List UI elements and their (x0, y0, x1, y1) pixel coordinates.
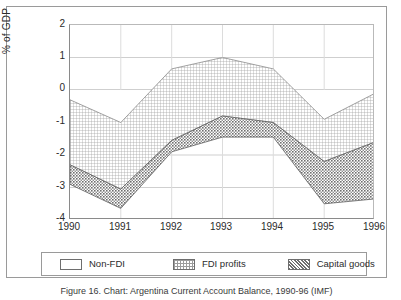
x-axis-tick-labels: 1990 1991 1992 1993 1994 1995 1996 (69, 221, 376, 235)
x-tick-1994: 1994 (252, 221, 292, 232)
y-tick-neg3: -3 (39, 181, 65, 191)
y-tick-1: 1 (39, 51, 65, 61)
legend-swatch-fdi-profits (173, 259, 195, 270)
x-tick-1996: 1996 (354, 221, 394, 232)
chart-legend: Non-FDI FDI profits Capital goods (41, 252, 367, 276)
x-tick-1990: 1990 (49, 221, 89, 232)
x-tick-1993: 1993 (201, 221, 241, 232)
x-tick-1991: 1991 (100, 221, 140, 232)
y-axis-tick-labels: 2 1 0 -1 -2 -3 -4 (37, 24, 65, 219)
figure-caption: Figure 16. Chart: Argentina Current Acco… (6, 286, 387, 297)
y-tick-neg2: -2 (39, 148, 65, 158)
legend-item-non-fdi: Non-FDI (60, 253, 125, 275)
area-chart-svg (70, 25, 374, 219)
x-tick-1995: 1995 (303, 221, 343, 232)
legend-swatch-non-fdi (60, 259, 82, 270)
x-tick-1992: 1992 (151, 221, 191, 232)
legend-label-non-fdi: Non-FDI (89, 259, 125, 269)
y-tick-neg1: -1 (39, 116, 65, 126)
legend-swatch-capital-goods (288, 259, 310, 270)
figure-frame: % of GDP 2 1 0 -1 -2 -3 -4 (6, 6, 387, 278)
y-axis-label: % of GDP (1, 0, 12, 91)
y-tick-0: 0 (39, 83, 65, 93)
legend-label-capital-goods: Capital goods (317, 259, 375, 269)
legend-label-fdi-profits: FDI profits (202, 259, 246, 269)
legend-item-capital-goods: Capital goods (288, 253, 375, 275)
figure-container: % of GDP 2 1 0 -1 -2 -3 -4 (0, 0, 401, 300)
legend-item-fdi-profits: FDI profits (173, 253, 246, 275)
y-tick-2: 2 (39, 19, 65, 29)
plot-area (69, 24, 374, 219)
